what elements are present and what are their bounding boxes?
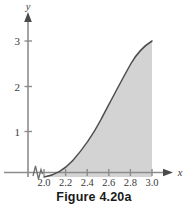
x-tick-label-2-6: 2.6	[102, 177, 115, 188]
plot-area: 2.0 2.2 2.4 2.6 2.8 3.0 1 2 3 y x	[0, 0, 188, 188]
x-axis-arrow	[163, 169, 173, 177]
x-axis-label: x	[177, 167, 183, 178]
y-tick-label-2: 2	[15, 81, 21, 93]
x-tick-label-3-0: 3.0	[145, 177, 158, 188]
y-axis-label: y	[25, 1, 31, 12]
figure-caption: Figure 4.20a	[0, 190, 188, 204]
figure-container: 2.0 2.2 2.4 2.6 2.8 3.0 1 2 3 y x Figure…	[0, 0, 188, 211]
plot-svg: 2.0 2.2 2.4 2.6 2.8 3.0 1 2 3 y x	[0, 0, 188, 188]
x-tick-label-2-0: 2.0	[37, 177, 50, 188]
x-tick-label-2-4: 2.4	[81, 177, 95, 188]
shaded-region	[44, 41, 152, 177]
x-tick-label-2-2: 2.2	[59, 177, 72, 188]
y-tick-label-3: 3	[15, 35, 21, 47]
y-tick-label-1: 1	[15, 126, 21, 138]
y-axis-arrow	[24, 12, 32, 22]
x-tick-label-2-8: 2.8	[124, 177, 137, 188]
